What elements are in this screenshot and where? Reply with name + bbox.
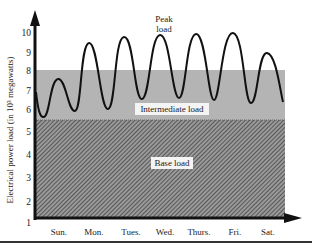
svg-text:1: 1 [26, 218, 31, 228]
svg-text:Sat.: Sat. [261, 227, 275, 237]
svg-text:8: 8 [26, 66, 31, 76]
y-tick-labels: 10 9 8 7 6 5 4 3 2 1 [22, 28, 32, 228]
x-axis-arrow-icon [284, 213, 302, 223]
svg-text:Wed.: Wed. [156, 227, 175, 237]
svg-text:2: 2 [26, 197, 31, 207]
intermediate-load-label: Intermediate load [140, 104, 204, 114]
svg-text:5: 5 [26, 127, 31, 137]
peak-load-label: Peak [155, 14, 173, 24]
y-axis-arrow-icon [30, 10, 40, 26]
y-axis-label: Electrical power load (in 10³ megawatts) [5, 57, 15, 204]
svg-text:3: 3 [26, 173, 31, 183]
svg-text:Sun.: Sun. [51, 227, 67, 237]
x-tick-labels: Sun. Mon. Tues. Wed. Thurs. Fri. Sat. [51, 227, 275, 237]
chart-canvas: 10 9 8 7 6 5 4 3 2 1 Electrical power lo… [0, 0, 312, 245]
svg-text:Mon.: Mon. [84, 227, 103, 237]
base-load-label: Base load [154, 158, 190, 168]
svg-text:Thurs.: Thurs. [187, 227, 210, 237]
svg-text:9: 9 [26, 48, 31, 58]
svg-text:Fri.: Fri. [229, 227, 242, 237]
svg-text:7: 7 [26, 86, 31, 96]
svg-text:4: 4 [26, 150, 31, 160]
svg-text:Tues.: Tues. [121, 227, 140, 237]
svg-text:10: 10 [22, 28, 32, 38]
peak-load-label-line2: load [156, 24, 172, 34]
svg-text:6: 6 [26, 105, 31, 115]
